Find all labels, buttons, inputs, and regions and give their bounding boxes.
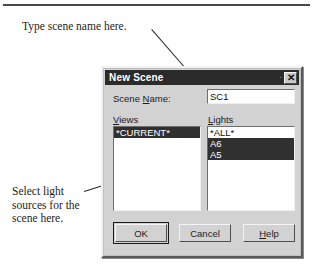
titlebar-mark: ·	[279, 73, 282, 82]
list-item[interactable]: *CURRENT*	[114, 127, 200, 138]
page-top-rule	[3, 4, 310, 6]
help-button-text: elp	[266, 228, 279, 239]
ok-button[interactable]: OK	[115, 224, 167, 242]
scene-name-label: Scene Name:	[113, 93, 171, 104]
close-button[interactable]: ✕	[284, 72, 297, 84]
views-label-text: iews	[119, 114, 138, 125]
views-listbox[interactable]: *CURRENT*	[113, 126, 201, 211]
help-button[interactable]: Help	[243, 224, 295, 242]
list-item[interactable]: *ALL*	[208, 127, 294, 138]
dialog-title: New Scene	[109, 72, 164, 83]
scene-name-label-text-after: ame:	[149, 93, 170, 104]
cancel-button[interactable]: Cancel	[179, 224, 231, 242]
new-scene-dialog: New Scene · ✕ Scene Name: SC1 Views *CUR…	[101, 66, 303, 258]
list-item[interactable]: A5	[208, 149, 294, 160]
lights-listbox[interactable]: *ALL* A6 A5	[207, 126, 295, 211]
lights-label: Lights	[208, 114, 233, 125]
scene-name-label-text-before: Scene	[113, 93, 143, 104]
views-label: Views	[113, 114, 138, 125]
scene-name-input[interactable]: SC1	[207, 89, 295, 104]
annotation-light-sources: Select light sources for the scene here.	[12, 185, 107, 226]
close-icon: ✕	[285, 72, 296, 84]
list-item[interactable]: A6	[208, 138, 294, 149]
dialog-titlebar[interactable]: New Scene · ✕	[105, 70, 299, 85]
annotation-scene-name: Type scene name here.	[22, 20, 127, 34]
lights-label-text: ights	[213, 114, 233, 125]
